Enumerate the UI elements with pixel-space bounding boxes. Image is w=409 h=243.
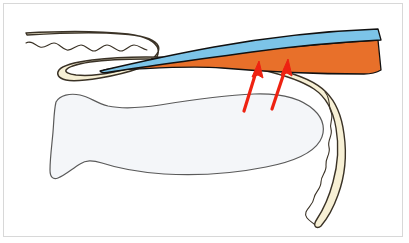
anatomy-diagram xyxy=(0,0,409,243)
pale-organ-body-group xyxy=(50,94,323,179)
pale-organ-body xyxy=(50,94,323,179)
cream-wavy-edge-upper xyxy=(26,42,147,51)
figure-root xyxy=(0,0,409,243)
